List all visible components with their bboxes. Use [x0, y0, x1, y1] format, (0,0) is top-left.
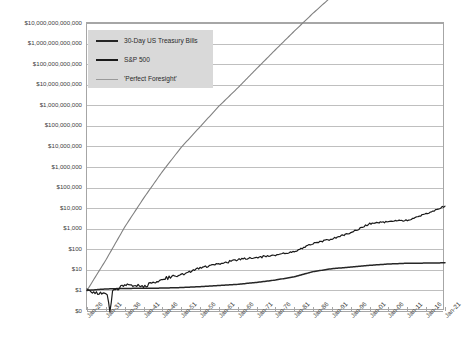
legend-swatch-perfect-foresight — [96, 79, 118, 80]
y-axis-tick-label: $100,000,000 — [0, 121, 82, 128]
y-axis-tick-label: $100,000 — [0, 183, 82, 190]
growth-of-a-dollar-chart: $10,000,000,000,000$1,000,000,000,000$10… — [0, 0, 466, 364]
y-axis-tick-label: $10,000 — [0, 204, 82, 211]
y-axis-tick-label: $10,000,000 — [0, 142, 82, 149]
legend-label-tbills: 30-Day US Treasury Bills — [124, 37, 198, 45]
y-axis-tick-label: $100,000,000,000 — [0, 60, 82, 67]
y-axis-tick-label: $1 — [0, 286, 82, 293]
chart-legend: 30-Day US Treasury Bills S&P 500 'Perfec… — [88, 30, 213, 88]
legend-swatch-tbills — [96, 40, 118, 42]
y-axis-tick-label: $0 — [0, 307, 82, 314]
legend-item-tbills: 30-Day US Treasury Bills — [96, 34, 198, 48]
y-axis-tick-label: $1,000,000 — [0, 163, 82, 170]
legend-item-sp500: S&P 500 — [96, 53, 150, 67]
legend-item-perfect-foresight: 'Perfect Foresight' — [96, 72, 177, 86]
y-axis-tick-label: $10 — [0, 265, 82, 272]
legend-swatch-sp500 — [96, 59, 118, 61]
y-axis-tick-label: $1,000,000,000,000 — [0, 39, 82, 46]
y-axis-tick-label: $100 — [0, 245, 82, 252]
y-axis-tick-label: $1,000 — [0, 224, 82, 231]
y-axis-tick-label: $1,000,000,000 — [0, 101, 82, 108]
legend-label-sp500: S&P 500 — [124, 56, 150, 64]
y-axis-tick-label: $10,000,000,000,000 — [0, 19, 82, 26]
legend-label-perfect-foresight: 'Perfect Foresight' — [124, 75, 177, 83]
y-axis-tick-label: $10,000,000,000 — [0, 80, 82, 87]
